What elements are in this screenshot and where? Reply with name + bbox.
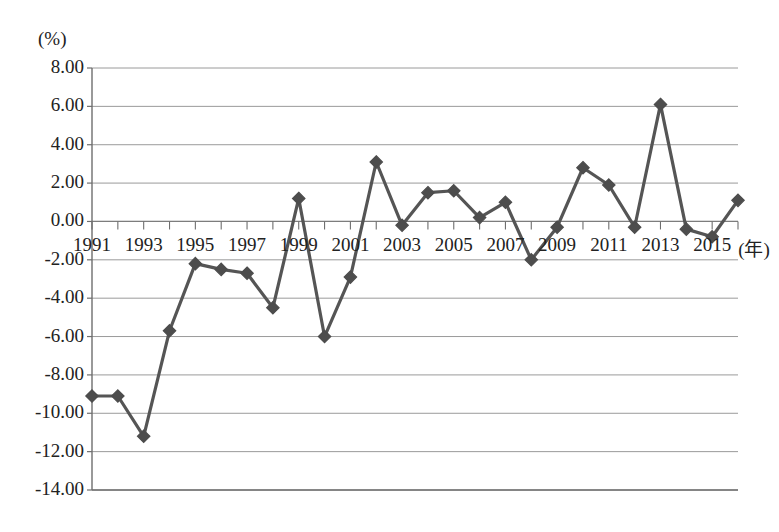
x-axis-tick-label: 2015 (693, 234, 731, 256)
data-point-marker (318, 330, 330, 342)
data-point-marker (189, 257, 201, 269)
y-axis-tick-label: 6.00 (2, 94, 84, 116)
x-axis-tick-label: 2013 (641, 234, 679, 256)
y-axis-tick-label: -2.00 (2, 248, 84, 270)
line-chart-canvas (0, 0, 779, 532)
x-axis-tick-label: 2011 (590, 234, 627, 256)
data-point-marker (654, 98, 666, 110)
x-axis-tick-label: 2003 (383, 234, 421, 256)
data-line (92, 104, 738, 436)
y-axis-tick-label: -8.00 (2, 363, 84, 385)
x-axis-tick-label: 1997 (228, 234, 266, 256)
data-point-marker (163, 325, 175, 337)
series-line-series-1 (92, 104, 738, 436)
y-axis-tick-label: 4.00 (2, 133, 84, 155)
data-point-marker (344, 271, 356, 283)
x-axis-tick-label: 2009 (538, 234, 576, 256)
data-point-marker (680, 223, 692, 235)
x-axis-tick-label: 2005 (435, 234, 473, 256)
y-axis-tick-marks (87, 68, 92, 490)
y-axis-tick-label: 0.00 (2, 209, 84, 231)
y-axis-tick-label: 2.00 (2, 171, 84, 193)
data-point-marker (293, 192, 305, 204)
x-axis-tick-label: 1993 (125, 234, 163, 256)
x-axis-tick-label: 2001 (331, 234, 369, 256)
data-point-marker (215, 263, 227, 275)
data-point-marker (370, 156, 382, 168)
x-axis-tick-label: 2007 (486, 234, 524, 256)
y-axis-tick-label: -10.00 (2, 401, 84, 423)
y-axis-tick-label: -6.00 (2, 325, 84, 347)
data-point-marker (86, 390, 98, 402)
y-axis-tick-label: -12.00 (2, 440, 84, 462)
x-axis-tick-marks (92, 221, 738, 229)
y-axis-tick-label: 8.00 (2, 56, 84, 78)
y-axis-unit-label: (%) (38, 28, 66, 50)
y-axis-tick-label: -14.00 (2, 478, 84, 500)
data-markers (86, 98, 744, 442)
x-axis-tick-label: 1991 (73, 234, 111, 256)
x-axis-tick-label: 1995 (176, 234, 214, 256)
x-axis-tick-label: 1999 (280, 234, 318, 256)
chart-figure: (%) 8.006.004.002.000.00-2.00-4.00-6.00-… (0, 0, 779, 532)
y-axis-tick-label: -4.00 (2, 286, 84, 308)
x-axis-unit-label: (年) (738, 234, 770, 261)
